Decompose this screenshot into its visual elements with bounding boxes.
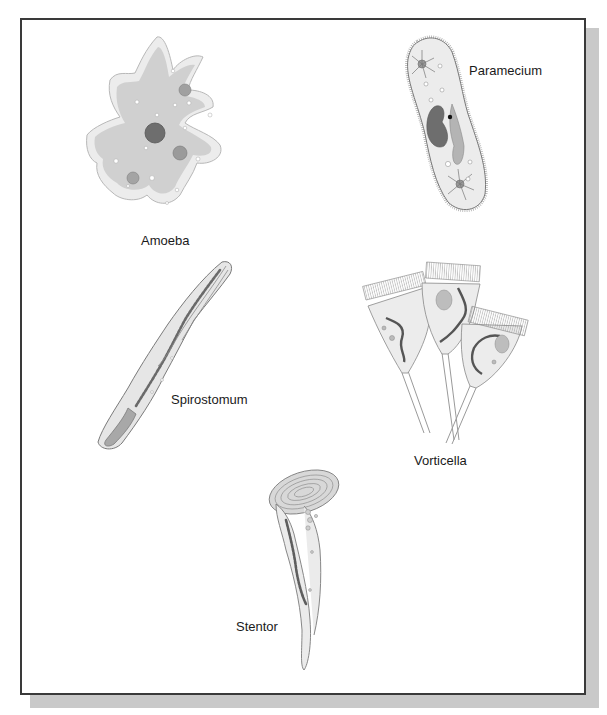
vorticella-zooid-right [461, 306, 528, 388]
stentor-oral-disc [264, 462, 345, 522]
vorticella-illustration [362, 258, 530, 448]
vorticella-label: Vorticella [414, 453, 467, 468]
amoeba-food-vacuole [127, 172, 139, 184]
amoeba-nucleus [145, 123, 165, 143]
stentor-body [276, 504, 321, 670]
amoeba-illustration [85, 35, 235, 215]
paramecium-illustration [400, 34, 500, 214]
paramecium-label: Paramecium [469, 63, 542, 78]
amoeba-food-vacuole [179, 84, 191, 96]
amoeba-label: Amoeba [141, 233, 189, 248]
spirostomum-label: Spirostomum [171, 392, 248, 407]
vorticella-zooid-left [363, 271, 431, 373]
paramecium-micronucleus [448, 115, 452, 119]
amoeba-food-vacuole [173, 146, 187, 160]
spirostomum-body [98, 262, 232, 449]
spirostomum-illustration [92, 258, 237, 453]
stentor-illustration [264, 470, 344, 675]
stentor-label: Stentor [236, 619, 278, 634]
